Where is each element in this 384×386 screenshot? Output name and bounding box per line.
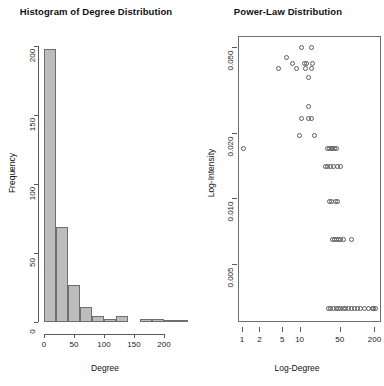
- histogram-y-tick-label: 100: [28, 183, 37, 205]
- histogram-bar: [104, 319, 116, 322]
- histogram-bar: [152, 319, 164, 322]
- scatter-point: [309, 45, 314, 50]
- histogram-bar: [56, 227, 68, 322]
- powerlaw-y-tick-label: 0.010: [226, 197, 235, 227]
- powerlaw-y-tick-label: 0.020: [226, 132, 235, 162]
- histogram-bar: [140, 319, 152, 322]
- histogram-x-tick: [134, 334, 135, 338]
- histogram-x-tick-label: 200: [150, 340, 178, 349]
- scatter-point: [341, 237, 346, 242]
- powerlaw-x-tick: [259, 327, 260, 332]
- scatter-point: [297, 133, 302, 138]
- histogram-x-tick-label: 150: [120, 340, 148, 349]
- powerlaw-x-tick: [300, 327, 301, 332]
- scatter-point: [309, 66, 314, 71]
- histogram-x-tick: [44, 334, 45, 338]
- histogram-x-tick: [74, 334, 75, 338]
- powerlaw-title: Power-Law Distribution: [192, 6, 384, 17]
- histogram-y-tick-label: 150: [28, 114, 37, 136]
- scatter-point: [299, 116, 304, 121]
- scatter-point: [335, 199, 340, 204]
- histogram-x-axis-title: Degree: [30, 363, 180, 373]
- histogram-x-tick-label: 50: [60, 340, 88, 349]
- powerlaw-x-tick-label: 50: [326, 335, 354, 344]
- histogram-y-axis-title: Frequency: [7, 143, 17, 203]
- histogram-bar: [80, 307, 92, 322]
- powerlaw-x-tick-label: 10: [286, 335, 314, 344]
- histogram-bar: [164, 320, 176, 322]
- powerlaw-x-axis-title: Log-Degree: [222, 363, 372, 373]
- scatter-point: [306, 75, 311, 80]
- scatter-point: [334, 146, 339, 151]
- powerlaw-x-tick: [242, 327, 243, 332]
- powerlaw-y-axis-title: Log-Intensity: [206, 138, 216, 208]
- histogram-bar: [176, 320, 188, 322]
- scatter-point: [241, 146, 246, 151]
- powerlaw-x-tick-label: 200: [360, 335, 384, 344]
- histogram-bar: [92, 316, 104, 322]
- scatter-point: [294, 66, 299, 71]
- powerlaw-y-tick-label: 0.050: [226, 45, 235, 75]
- histogram-y-tick-label: 50: [28, 252, 37, 274]
- scatter-point: [290, 61, 295, 66]
- scatter-point: [284, 55, 289, 60]
- scatter-point: [299, 45, 304, 50]
- scatter-point: [303, 66, 308, 71]
- scatter-point: [310, 61, 315, 66]
- histogram-x-tick-label: 0: [30, 340, 58, 349]
- histogram-y-axis-line: [38, 46, 39, 322]
- histogram-x-tick: [104, 334, 105, 338]
- powerlaw-plot-area: [238, 36, 381, 322]
- histogram-bar: [68, 285, 80, 322]
- scatter-point: [338, 164, 343, 169]
- histogram-bar: [44, 49, 56, 322]
- histogram-bar: [116, 316, 128, 322]
- histogram-x-tick-label: 100: [90, 340, 118, 349]
- scatter-point: [349, 237, 354, 242]
- powerlaw-x-tick: [282, 327, 283, 332]
- histogram-panel: Histogram of Degree Distribution Frequen…: [0, 0, 192, 386]
- powerlaw-x-tick: [340, 327, 341, 332]
- histogram-y-tick-label: 200: [28, 45, 37, 67]
- figure-canvas: Histogram of Degree Distribution Frequen…: [0, 0, 384, 386]
- powerlaw-y-tick-label: 0.005: [226, 262, 235, 292]
- histogram-plot-area: [44, 46, 188, 322]
- histogram-x-tick: [164, 334, 165, 338]
- scatter-point: [304, 61, 309, 66]
- scatter-point: [306, 104, 311, 109]
- scatter-point: [312, 133, 317, 138]
- powerlaw-panel: Power-Law Distribution Log-Intensity Log…: [192, 0, 384, 386]
- powerlaw-x-tick: [374, 327, 375, 332]
- histogram-title: Histogram of Degree Distribution: [0, 6, 192, 17]
- scatter-point: [309, 116, 314, 121]
- scatter-point: [276, 66, 281, 71]
